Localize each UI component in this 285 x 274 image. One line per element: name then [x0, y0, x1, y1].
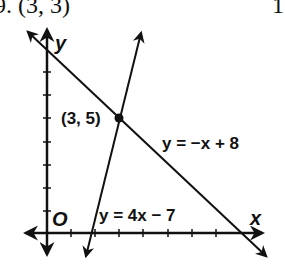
- x-axis-label: x: [249, 207, 262, 229]
- line2-label: y = 4x − 7: [99, 206, 176, 225]
- point-label: (3, 5): [61, 109, 101, 128]
- intersection-point: [115, 114, 124, 123]
- line1-label: y = −x + 8: [162, 134, 239, 153]
- graph: y x O (3, 5) y = −x + 8 y = 4x − 7: [0, 0, 285, 274]
- y-axis-label: y: [54, 32, 67, 54]
- origin-label: O: [52, 208, 68, 230]
